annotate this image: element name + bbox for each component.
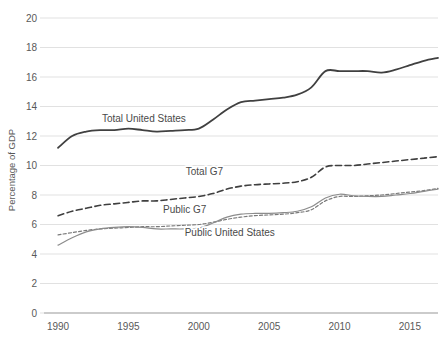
- y-tick-label-2: 2: [31, 278, 37, 289]
- y-tick-label-0: 0: [31, 308, 37, 319]
- x-tick-label-2010: 2010: [328, 321, 351, 332]
- y-axis-title-group: Percentage of GDP: [6, 129, 17, 211]
- series-label-total-g7: Total G7: [186, 166, 224, 177]
- y-tick-label-20: 20: [26, 13, 38, 24]
- y-tick-label-8: 8: [31, 190, 37, 201]
- x-tick-label-2015: 2015: [399, 321, 422, 332]
- series-label-public-united-states: Public United States: [185, 227, 275, 238]
- chart-container: 02468101214161820 1990199520002005201020…: [0, 0, 444, 341]
- y-tick-label-18: 18: [26, 42, 38, 53]
- y-tick-label-6: 6: [31, 219, 37, 230]
- y-tick-label-12: 12: [26, 131, 38, 142]
- y-tick-label-10: 10: [26, 160, 38, 171]
- x-tick-label-2005: 2005: [258, 321, 281, 332]
- data-series: [58, 58, 438, 245]
- x-tick-label-1990: 1990: [47, 321, 70, 332]
- series-label-public-g7: Public G7: [163, 204, 207, 215]
- x-tick-label-2000: 2000: [188, 321, 211, 332]
- y-axis-title: Percentage of GDP: [6, 129, 17, 211]
- gridlines: [44, 18, 438, 313]
- y-tick-label-16: 16: [26, 72, 38, 83]
- series-line-total-united-states: [58, 58, 438, 148]
- y-axis-tick-labels: 02468101214161820: [26, 13, 44, 319]
- series-label-total-united-states: Total United States: [102, 113, 186, 124]
- y-tick-label-14: 14: [26, 101, 38, 112]
- series-annotations: Total United StatesTotal United StatesTo…: [102, 113, 275, 238]
- line-chart: 02468101214161820 1990199520002005201020…: [0, 0, 444, 341]
- x-tick-label-1995: 1995: [117, 321, 140, 332]
- y-tick-label-4: 4: [31, 249, 37, 260]
- x-axis-tick-labels: 199019952000200520102015: [47, 321, 421, 332]
